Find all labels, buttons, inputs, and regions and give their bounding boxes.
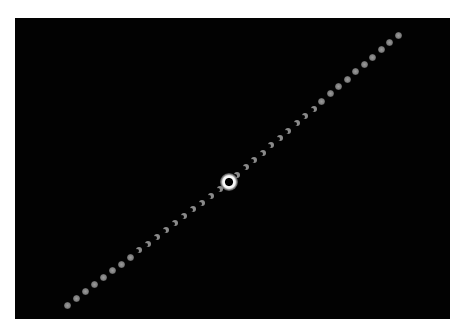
- sun-disc: [109, 267, 116, 274]
- sun-disc: [327, 90, 334, 97]
- sun-disc: [64, 302, 71, 309]
- sun-disc: [352, 68, 359, 75]
- partial-eclipse-crescent: [190, 206, 196, 212]
- total-eclipse-corona: [220, 173, 238, 191]
- sun-disc: [100, 274, 107, 281]
- sun-disc: [378, 46, 385, 53]
- partial-eclipse-crescent: [260, 150, 266, 156]
- sun-disc: [335, 83, 342, 90]
- sun-disc: [386, 39, 393, 46]
- partial-eclipse-crescent: [302, 113, 308, 119]
- eclipse-photo: [15, 18, 450, 319]
- sun-disc: [91, 281, 98, 288]
- sun-disc: [318, 98, 325, 105]
- partial-eclipse-crescent: [243, 164, 249, 170]
- sun-disc: [361, 61, 368, 68]
- partial-eclipse-crescent: [145, 241, 151, 247]
- sun-disc: [118, 261, 125, 268]
- partial-eclipse-crescent: [311, 106, 317, 112]
- sun-disc: [395, 32, 402, 39]
- partial-eclipse-crescent: [251, 157, 257, 163]
- partial-eclipse-crescent: [154, 234, 160, 240]
- sun-disc: [73, 295, 80, 302]
- partial-eclipse-crescent: [199, 200, 205, 206]
- partial-eclipse-crescent: [181, 213, 187, 219]
- partial-eclipse-crescent: [277, 135, 283, 141]
- partial-eclipse-crescent: [294, 120, 300, 126]
- sun-disc: [344, 76, 351, 83]
- partial-eclipse-crescent: [268, 142, 274, 148]
- photo-caption: [15, 320, 450, 330]
- partial-eclipse-crescent: [208, 193, 214, 199]
- partial-eclipse-crescent: [163, 227, 169, 233]
- sun-disc: [369, 54, 376, 61]
- partial-eclipse-crescent: [172, 220, 178, 226]
- sun-disc: [127, 254, 134, 261]
- sun-disc: [82, 288, 89, 295]
- partial-eclipse-crescent: [285, 128, 291, 134]
- partial-eclipse-crescent: [136, 247, 142, 253]
